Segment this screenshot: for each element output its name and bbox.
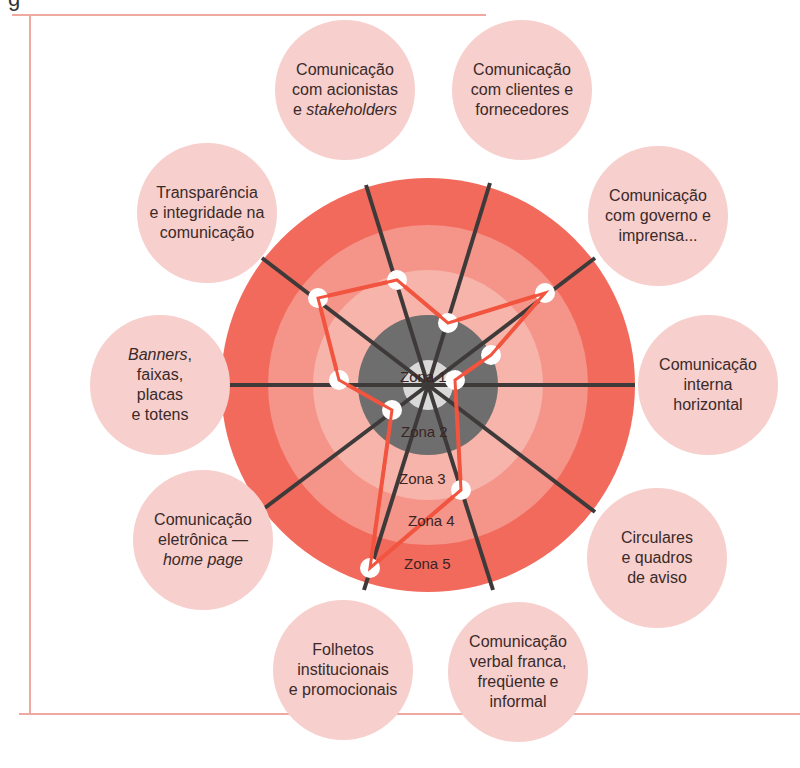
category-bubble-clientes: Comunicaçãocom clientes efornecedores bbox=[452, 20, 592, 160]
zone-label-4: Zona 4 bbox=[408, 512, 455, 529]
category-bubble-banners: Banners,faixas,placase totens bbox=[90, 315, 230, 455]
category-label: Circularese quadrosde aviso bbox=[621, 528, 693, 588]
category-bubble-transparencia: Transparênciae integridade nacomunicação bbox=[137, 143, 277, 283]
category-bubble-folhetos: Folhetosinstitucionaise promocionais bbox=[273, 600, 413, 740]
category-bubble-verbal: Comunicaçãoverbal franca,freqüente einfo… bbox=[448, 602, 588, 742]
zone-label-5: Zona 5 bbox=[404, 555, 451, 572]
category-label: Comunicaçãoverbal franca,freqüente einfo… bbox=[469, 632, 567, 712]
category-bubble-homepage: Comunicaçãoeletrônica —home page bbox=[133, 470, 273, 610]
category-label: Banners,faixas,placase totens bbox=[128, 345, 192, 425]
category-bubble-circulares: Circularese quadrosde aviso bbox=[587, 488, 727, 628]
category-label: Comunicaçãocom clientes efornecedores bbox=[471, 60, 573, 120]
category-bubble-acionistas: Comunicaçãocom acionistase stakeholders bbox=[275, 20, 415, 160]
category-label: Comunicaçãocom governo eimprensa... bbox=[605, 186, 711, 246]
category-label: Comunicaçãoeletrônica —home page bbox=[154, 510, 252, 570]
category-bubble-governo: Comunicaçãocom governo eimprensa... bbox=[588, 146, 728, 286]
category-bubble-interna: Comunicaçãointernahorizontal bbox=[638, 315, 778, 455]
zone-label-1: Zona 1 bbox=[400, 368, 447, 385]
category-label: Transparênciae integridade nacomunicação bbox=[150, 183, 265, 243]
zone-label-3: Zona 3 bbox=[399, 470, 446, 487]
category-label: Comunicaçãocom acionistase stakeholders bbox=[292, 60, 398, 120]
category-label: Folhetosinstitucionaise promocionais bbox=[289, 640, 398, 700]
zone-label-2: Zona 2 bbox=[401, 423, 448, 440]
category-label: Comunicaçãointernahorizontal bbox=[659, 355, 757, 415]
